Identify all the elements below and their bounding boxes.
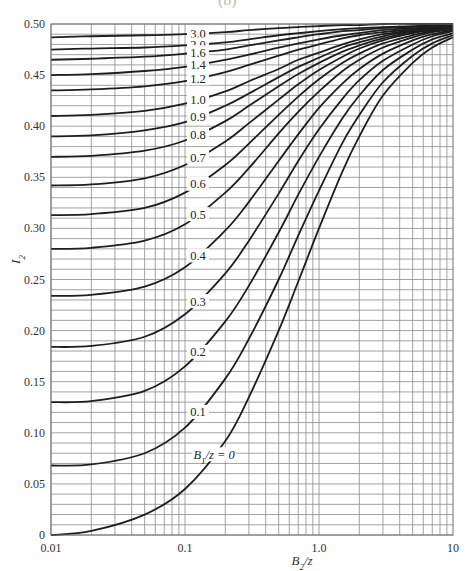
curve-b1z-0 bbox=[51, 37, 453, 535]
curve-label: 0.4 bbox=[190, 249, 206, 263]
x-tick-label: 10 bbox=[447, 541, 459, 555]
y-axis-label: I2 bbox=[8, 255, 27, 265]
figure-title-partial: (b) bbox=[218, 0, 237, 9]
curve-b1z-0-4 bbox=[51, 30, 453, 296]
curve-label: 0.1 bbox=[190, 405, 206, 419]
axes: 00.050.100.150.200.250.300.350.400.450.5… bbox=[8, 17, 459, 571]
x-tick-label: 0.01 bbox=[41, 541, 62, 555]
curve-b1z-0-7 bbox=[51, 28, 453, 185]
chart-svg: 3.02.01.61.41.21.00.90.80.70.60.50.40.30… bbox=[0, 0, 470, 571]
curve-label: 1.4 bbox=[190, 58, 206, 72]
curve-label: 0.7 bbox=[190, 151, 206, 165]
curve-label: 0.8 bbox=[190, 128, 206, 142]
y-tick-label: 0.50 bbox=[24, 17, 45, 31]
y-tick-label: 0.30 bbox=[24, 221, 45, 235]
y-tick-label: 0.20 bbox=[24, 324, 45, 338]
curve-label: 0.5 bbox=[190, 208, 206, 222]
y-tick-label: 0.25 bbox=[24, 273, 45, 287]
curve-labels: 3.02.01.61.41.21.00.90.80.70.60.50.40.30… bbox=[187, 27, 236, 466]
curve-b1z-0-1 bbox=[51, 35, 453, 465]
curve-label: 1.0 bbox=[190, 93, 206, 107]
influence-factor-chart: (b) 3.02.01.61.41.21.00.90.80.70.60.50.4… bbox=[0, 0, 470, 571]
curve-label: 0.6 bbox=[190, 177, 206, 191]
curve-label: 0.3 bbox=[190, 295, 206, 309]
y-tick-label: 0 bbox=[39, 528, 45, 542]
y-tick-label: 0.45 bbox=[24, 68, 45, 82]
y-tick-label: 0.40 bbox=[24, 119, 45, 133]
y-tick-label: 0.15 bbox=[24, 375, 45, 389]
x-tick-label: 1.0 bbox=[312, 541, 327, 555]
y-tick-label: 0.35 bbox=[24, 170, 45, 184]
x-tick-label: 0.1 bbox=[178, 541, 193, 555]
curve-label: 0.2 bbox=[190, 345, 206, 359]
y-tick-label: 0.10 bbox=[24, 426, 45, 440]
x-axis-label: B2/z bbox=[291, 553, 312, 571]
curve-label: 1.2 bbox=[190, 72, 206, 86]
curve-label: 0.9 bbox=[190, 110, 206, 124]
y-tick-label: 0.05 bbox=[24, 477, 45, 491]
